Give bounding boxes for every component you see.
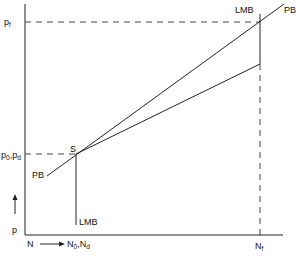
s-point-label: S [70,144,76,154]
right-arrow-icon [59,242,65,247]
p-axis-label: p [12,225,17,235]
pb-upper-label: PB [284,5,296,15]
up-arrow-icon [13,194,18,200]
n-origin-label: N [27,239,34,249]
lower-line [76,64,260,154]
pf-label: pf [4,17,11,28]
lmb-lower-label: LMB [79,217,98,227]
lmb-upper-label: LMB [235,5,254,15]
p0-pd-label: p0,pd [1,150,21,161]
pb-line [47,4,284,176]
n0-nd-label: N0,Nd [67,239,90,250]
nf-label: Nf [255,241,264,252]
pb-lower-label: PB [32,170,44,180]
diagram-canvas: pf p0,pd PB S LMB LMB PB p N N0,Nd Nf [0,0,296,263]
